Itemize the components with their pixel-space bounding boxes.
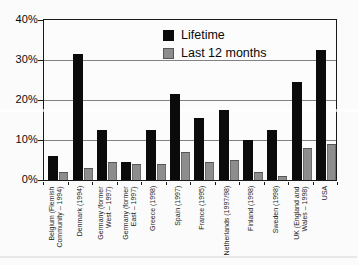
bar-last-12-months (84, 168, 93, 180)
x-axis-label: UK (England andWales – 1998) (293, 186, 308, 264)
x-axis-tick (141, 182, 142, 185)
x-axis-label: Spain (1997) (174, 186, 182, 264)
bar-last-12-months (303, 148, 312, 180)
bar-lifetime (97, 130, 107, 180)
scan-artifact-line (0, 256, 357, 258)
x-axis-tick (313, 182, 314, 185)
bar-last-12-months (181, 152, 190, 180)
y-axis-label-10pct: 10% (4, 133, 38, 146)
bar-lifetime (243, 140, 253, 180)
x-axis-tick (92, 182, 93, 185)
y-axis-tick-20pct (38, 100, 43, 101)
bar-last-12-months (108, 162, 117, 180)
lifetime-swatch-icon (163, 30, 174, 41)
y-axis-label-0pct: 0% (4, 173, 38, 186)
x-axis-tick (43, 182, 44, 185)
bar-lifetime (316, 50, 326, 180)
legend-label-lifetime: Lifetime (181, 28, 225, 42)
x-axis-label: Greece (1998) (150, 186, 158, 264)
bar-lifetime (48, 156, 58, 180)
x-axis-label: USA (321, 186, 329, 264)
x-axis-tick (288, 182, 289, 185)
bar-last-12-months (59, 172, 68, 180)
bar-last-12-months (205, 162, 214, 180)
bar-last-12-months (132, 164, 141, 180)
bar-last-12-months (278, 176, 287, 180)
plot-area: Lifetime Last 12 months (43, 19, 337, 181)
x-axis-label: Denmark (1994) (76, 186, 84, 264)
x-axis-label: Germany (formerWest – 1997) (97, 186, 112, 264)
legend-item-last-12-months: Last 12 months (163, 46, 266, 60)
x-axis-tick (215, 182, 216, 185)
x-axis-tick (337, 182, 338, 185)
y-axis-label-40pct: 40% (4, 13, 38, 26)
x-axis-label: France (1995) (199, 186, 207, 264)
last-12-months-swatch-icon (163, 48, 174, 59)
x-axis-label: Belgium (FlemishCommunity – 1994) (48, 186, 63, 264)
x-axis-tick (239, 182, 240, 185)
x-axis-tick (68, 182, 69, 185)
bar-lifetime (73, 54, 83, 180)
x-axis-label: Sweden (1998) (272, 186, 280, 264)
bar-last-12-months (327, 144, 336, 180)
legend-item-lifetime: Lifetime (163, 28, 266, 42)
x-axis-label: Finland (1998) (248, 186, 256, 264)
bar-lifetime (267, 130, 277, 180)
y-axis-label-20pct: 20% (4, 93, 38, 106)
y-axis-label-30pct: 30% (4, 53, 38, 66)
bar-last-12-months (254, 172, 263, 180)
bar-last-12-months (230, 160, 239, 180)
bar-lifetime (194, 118, 204, 180)
x-axis-tick (166, 182, 167, 185)
x-axis-label: Netherlands (1997/98) (223, 186, 231, 264)
y-axis-tick-0pct (38, 180, 43, 181)
x-axis-label: Germany (formerEast – 1997) (121, 186, 136, 264)
bar-lifetime (170, 94, 180, 180)
legend: Lifetime Last 12 months (163, 28, 266, 64)
bar-lifetime (121, 162, 131, 180)
bar-lifetime (219, 110, 229, 180)
bar-lifetime (146, 130, 156, 180)
y-axis-tick-10pct (38, 140, 43, 141)
x-axis-tick (117, 182, 118, 185)
bar-last-12-months (157, 164, 166, 180)
bar-lifetime (292, 82, 302, 180)
legend-label-last-12-months: Last 12 months (181, 46, 266, 60)
y-axis-tick-30pct (38, 60, 43, 61)
y-axis-tick-40pct (38, 20, 43, 21)
x-axis-tick (264, 182, 265, 185)
x-axis-tick (190, 182, 191, 185)
